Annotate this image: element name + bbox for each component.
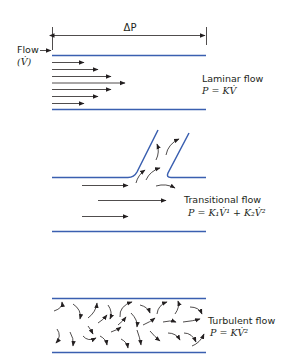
pressure-drop-dimension: ΔP [53, 22, 207, 50]
eddy-arrow-icon [192, 334, 204, 346]
eddy-arrow-icon [121, 339, 128, 348]
eddy-arrow-icon [131, 313, 137, 327]
eddy-arrow-icon [98, 315, 107, 323]
eddy-arrow-icon [108, 305, 111, 319]
laminar-panel: Laminar flow P = KV̇ [52, 56, 264, 110]
laminar-title: Laminar flow [202, 73, 264, 84]
turbulent-panel: Turbulent flow P = KV̇² [52, 299, 275, 353]
eddy-arrow-icon [137, 330, 141, 345]
delta-p-label: ΔP [124, 22, 137, 33]
transitional-equation: P = K₁V̇¹ + K₂V̇² [187, 207, 266, 218]
flow-inlet-label: Flow (V̇) [17, 44, 51, 67]
turbulent-equation: P = KV̇² [209, 327, 248, 338]
eddy-arrow-icon [184, 333, 196, 342]
eddy-arrow-icon [73, 304, 80, 319]
eddy-arrow-icon [70, 332, 73, 346]
laminar-equation: P = KV̇ [201, 85, 237, 96]
eddy-arrow-icon [166, 139, 179, 155]
eddy-arrow-icon [56, 329, 59, 343]
eddy-arrow-icon [168, 333, 180, 340]
eddy-arrow-icon [156, 144, 158, 160]
eddy-arrow-icon [163, 321, 176, 322]
transitional-title: Transitional flow [183, 194, 261, 205]
turbulent-title: Turbulent flow [207, 315, 275, 326]
eddy-arrow-icon [157, 302, 167, 314]
flow-rate-symbol: (V̇) [17, 56, 32, 67]
eddy-arrow-icon [143, 318, 155, 325]
transitional-panel: Transitional flow P = K₁V̇¹ + K₂V̇² [52, 130, 266, 232]
eddy-arrow-icon [88, 303, 97, 318]
turbulent-eddies [54, 301, 204, 348]
eddy-arrow-icon [156, 185, 175, 188]
eddy-arrow-icon [146, 168, 160, 180]
transitional-pipe-top-wall-right [167, 133, 206, 178]
eddy-arrow-icon [175, 301, 179, 314]
eddy-arrow-icon [54, 302, 62, 311]
eddy-arrow-icon [83, 336, 96, 340]
flow-label: Flow [17, 44, 39, 55]
laminar-velocity-profile [52, 63, 125, 104]
eddy-arrow-icon [140, 305, 150, 313]
transitional-pipe-top-wall-left [52, 130, 158, 178]
eddy-arrow-icon [150, 331, 160, 341]
flow-regimes-diagram: ΔP Flow (V̇) Laminar flow P = KV̇ [0, 0, 282, 355]
eddy-arrow-icon [120, 302, 132, 317]
eddy-arrow-icon [100, 336, 107, 345]
eddy-arrow-icon [88, 326, 93, 334]
eddy-arrow-icon [183, 319, 200, 322]
eddy-arrow-icon [111, 327, 121, 332]
eddy-arrow-icon [190, 307, 202, 314]
eddy-arrow-icon [118, 317, 126, 325]
